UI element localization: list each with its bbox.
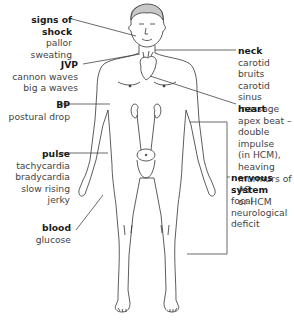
kidneys: [131, 104, 161, 118]
label-blood: blood glucose: [36, 222, 71, 245]
label-signs-of-shock: signs of shock pallor sweating: [0, 14, 72, 60]
hair: [131, 4, 163, 20]
label-jvp: JVP cannon waves big a waves: [12, 59, 78, 94]
label-bp: BP postural drop: [9, 99, 70, 122]
heart-organ: [140, 56, 156, 80]
leader-lines: [60, 19, 236, 254]
label-title: signs of shock: [0, 14, 72, 37]
torso-outline: [79, 45, 215, 312]
label-nervous-system: nervous system focal neurological defici…: [231, 172, 294, 230]
label-pulse: pulse tachycardia bradycardia slow risin…: [15, 148, 70, 206]
